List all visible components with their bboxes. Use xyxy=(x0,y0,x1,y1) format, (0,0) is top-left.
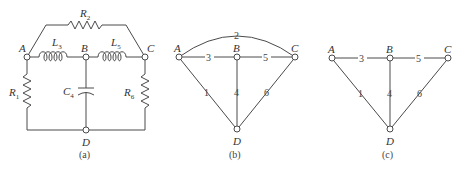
edge-label-6: 6 xyxy=(417,88,422,99)
node-label-b: B xyxy=(81,42,88,54)
label-r2: R2 xyxy=(79,7,91,22)
node-label-d: D xyxy=(81,136,90,148)
inductor-l5 xyxy=(98,52,126,61)
panel-c-graph: A B C D 3 5 1 4 6 (c) xyxy=(327,43,452,161)
node-c xyxy=(142,54,148,60)
label-r1: R1 xyxy=(8,86,20,101)
node-b xyxy=(83,54,89,60)
edge-label-1: 1 xyxy=(204,87,209,98)
node-b xyxy=(387,55,393,61)
edge-label-1: 1 xyxy=(358,88,363,99)
node-label-c: C xyxy=(291,42,299,54)
label-c4: C4 xyxy=(63,85,74,100)
inductor-l3 xyxy=(39,52,67,61)
label-l5: L5 xyxy=(110,36,121,51)
caption-a: (a) xyxy=(79,149,90,161)
panel-a-circuit: A B C D R2 L3 L5 R1 C4 R6 (a) xyxy=(8,7,155,161)
caption-c: (c) xyxy=(382,149,393,161)
figure-canvas: A B C D R2 L3 L5 R1 C4 R6 (a) A B C D 3 … xyxy=(0,0,464,172)
edge-label-3: 3 xyxy=(206,52,211,63)
edge-label-4: 4 xyxy=(234,87,239,98)
resistor-r1 xyxy=(23,74,31,108)
label-r6: R6 xyxy=(123,86,135,101)
edge-label-2: 2 xyxy=(234,30,239,41)
node-label-d: D xyxy=(232,135,241,147)
node-label-c: C xyxy=(147,42,155,54)
node-label-a: A xyxy=(173,42,181,54)
node-label-b: B xyxy=(233,42,240,54)
panel-b-graph: A B C D 3 5 2 1 4 6 (b) xyxy=(173,30,299,161)
label-l3: L3 xyxy=(51,36,62,51)
edge-label-5: 5 xyxy=(263,52,268,63)
node-c xyxy=(292,54,298,60)
node-label-c: C xyxy=(444,43,452,55)
caption-b: (b) xyxy=(229,149,241,161)
wire-a-r1-bottom xyxy=(27,108,83,130)
node-label-d: D xyxy=(385,135,394,147)
node-label-a: A xyxy=(18,42,26,54)
wire-a-r6-bottom xyxy=(89,108,145,130)
edge-label-6: 6 xyxy=(264,87,269,98)
node-d xyxy=(234,126,240,132)
node-b xyxy=(234,54,240,60)
node-d xyxy=(83,127,89,133)
node-label-b: B xyxy=(386,43,393,55)
node-a xyxy=(329,55,335,61)
node-a xyxy=(176,54,182,60)
node-a xyxy=(24,54,30,60)
node-d xyxy=(387,126,393,132)
resistor-r6 xyxy=(141,74,149,108)
edge-label-4: 4 xyxy=(387,88,392,99)
node-label-a: A xyxy=(327,43,335,55)
node-c xyxy=(445,55,451,61)
edge-label-3: 3 xyxy=(359,53,364,64)
resistor-r2 xyxy=(68,21,102,29)
edge-label-5: 5 xyxy=(416,53,421,64)
